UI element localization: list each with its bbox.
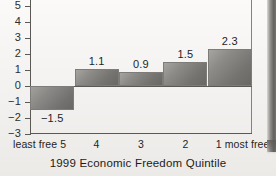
scan-gutter-fade-artifact bbox=[267, 140, 276, 154]
y-tick: 2 bbox=[25, 54, 31, 55]
x-axis-label: 4 bbox=[94, 138, 100, 150]
y-tick: 5 bbox=[25, 6, 31, 7]
y-tick-label: 1 bbox=[15, 63, 21, 75]
x-axis-label: 2 bbox=[182, 138, 188, 150]
x-axis-title: 1999 Economic Freedom Quintile bbox=[0, 157, 276, 169]
y-tick: 1 bbox=[25, 70, 31, 71]
scan-gutter-artifact bbox=[267, 0, 276, 152]
y-tick-label: 5 bbox=[15, 0, 21, 11]
figure-root: 543210−1−2−3 −1.51.10.91.52.3 least free… bbox=[0, 0, 276, 176]
y-tick-label: −1 bbox=[8, 95, 21, 107]
x-axis-label: 3 bbox=[138, 138, 144, 150]
bar bbox=[119, 72, 163, 86]
y-tick-label: 2 bbox=[15, 47, 21, 59]
bar bbox=[75, 69, 119, 87]
y-tick-label: 4 bbox=[15, 15, 21, 27]
x-axis-label: least free 5 bbox=[13, 138, 66, 150]
bar bbox=[30, 86, 74, 110]
plot-area: 543210−1−2−3 −1.51.10.91.52.3 bbox=[30, 0, 252, 134]
bar-value-label: −1.5 bbox=[20, 112, 84, 124]
y-tick: −3 bbox=[25, 134, 31, 135]
y-tick: 3 bbox=[25, 38, 31, 39]
x-axis-line bbox=[30, 133, 252, 134]
y-tick-label: 3 bbox=[15, 31, 21, 43]
bar-value-label: 1.5 bbox=[153, 48, 217, 60]
y-tick: 4 bbox=[25, 22, 31, 23]
y-tick-label: 0 bbox=[15, 79, 21, 91]
y-tick-label: −2 bbox=[8, 111, 21, 123]
bar-value-label: 2.3 bbox=[198, 35, 262, 47]
x-axis-label: 1 most free bbox=[216, 138, 270, 150]
x-axis-labels: least free 54321 most free bbox=[0, 138, 276, 154]
